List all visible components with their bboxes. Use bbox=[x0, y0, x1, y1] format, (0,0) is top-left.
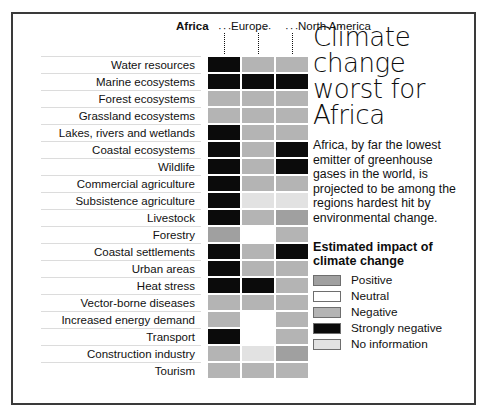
matrix-cell bbox=[242, 125, 274, 140]
matrix-cell bbox=[276, 74, 308, 89]
matrix-cell bbox=[276, 91, 308, 106]
matrix-cell bbox=[276, 329, 308, 344]
matrix-cell bbox=[208, 261, 240, 276]
row-label-water-resources: Water resources bbox=[13, 58, 195, 73]
legend-swatch-pos-icon bbox=[313, 275, 341, 286]
matrix-cell bbox=[242, 312, 274, 327]
matrix-cell bbox=[242, 363, 274, 378]
legend-item-neg: Negative bbox=[313, 306, 463, 321]
infographic-frame: Africa···Europe···North America··· Water… bbox=[11, 12, 476, 405]
matrix-cell bbox=[208, 142, 240, 157]
matrix-cell bbox=[242, 278, 274, 293]
row-label-tourism: Tourism bbox=[13, 364, 195, 379]
legend-label: Neutral bbox=[351, 290, 389, 303]
row-divider bbox=[41, 226, 201, 227]
legend-label: Positive bbox=[351, 274, 392, 287]
row-divider bbox=[41, 158, 201, 159]
legend-label: No information bbox=[351, 338, 428, 351]
matrix-row: Tourism bbox=[13, 362, 474, 379]
matrix-cell bbox=[276, 227, 308, 242]
row-divider bbox=[41, 277, 201, 278]
legend-item-neutral: Neutral bbox=[313, 290, 463, 305]
row-label-heat-stress: Heat stress bbox=[13, 279, 195, 294]
matrix-cell bbox=[208, 363, 240, 378]
matrix-cell bbox=[276, 210, 308, 225]
matrix-cell bbox=[208, 227, 240, 242]
legend-swatch-neg-icon bbox=[313, 307, 341, 318]
row-divider bbox=[41, 141, 201, 142]
row-label-wildlife: Wildlife bbox=[13, 160, 195, 175]
matrix-cell bbox=[242, 74, 274, 89]
row-divider bbox=[41, 209, 201, 210]
matrix-cell bbox=[242, 193, 274, 208]
matrix-cell bbox=[242, 346, 274, 361]
row-label-increased-energy-demand: Increased energy demand bbox=[13, 313, 195, 328]
matrix-cell bbox=[208, 312, 240, 327]
row-divider bbox=[41, 243, 201, 244]
matrix-cell bbox=[208, 125, 240, 140]
matrix-cell bbox=[242, 176, 274, 191]
legend-swatch-neutral-icon bbox=[313, 291, 341, 302]
matrix-cell bbox=[242, 57, 274, 72]
row-divider bbox=[41, 175, 201, 176]
legend-swatch-strongneg-icon bbox=[313, 323, 341, 334]
matrix-cell bbox=[276, 57, 308, 72]
matrix-cell bbox=[242, 329, 274, 344]
row-divider bbox=[41, 192, 201, 193]
row-label-coastal-settlements: Coastal settlements bbox=[13, 245, 195, 260]
matrix-cell bbox=[242, 159, 274, 174]
row-divider bbox=[41, 73, 201, 74]
matrix-cell bbox=[242, 244, 274, 259]
row-label-grassland-ecosystems: Grassland ecosystems bbox=[13, 109, 195, 124]
matrix-cell bbox=[276, 125, 308, 140]
matrix-cell bbox=[276, 363, 308, 378]
matrix-cell bbox=[208, 244, 240, 259]
infographic-root: Africa···Europe···North America··· Water… bbox=[0, 0, 488, 418]
matrix-cell bbox=[276, 193, 308, 208]
matrix-cell bbox=[208, 210, 240, 225]
row-label-urban-areas: Urban areas bbox=[13, 262, 195, 277]
matrix-cell bbox=[276, 142, 308, 157]
row-divider bbox=[41, 345, 201, 346]
infographic-canvas: Africa···Europe···North America··· Water… bbox=[13, 14, 474, 403]
legend-item-noinfo: No information bbox=[313, 338, 463, 353]
legend-swatch-noinfo-icon bbox=[313, 339, 341, 350]
matrix-cell bbox=[276, 295, 308, 310]
row-divider bbox=[41, 107, 201, 108]
matrix-cell bbox=[276, 108, 308, 123]
row-label-coastal-ecosystems: Coastal ecosystems bbox=[13, 143, 195, 158]
matrix-cell bbox=[208, 295, 240, 310]
matrix-cell bbox=[242, 108, 274, 123]
matrix-cell bbox=[276, 261, 308, 276]
matrix-cell bbox=[242, 261, 274, 276]
matrix-cell bbox=[208, 57, 240, 72]
row-divider bbox=[41, 328, 201, 329]
row-label-lakes-rivers-and-wetlands: Lakes, rivers and wetlands bbox=[13, 126, 195, 141]
row-divider bbox=[41, 311, 201, 312]
matrix-cell bbox=[208, 193, 240, 208]
matrix-cell bbox=[208, 329, 240, 344]
row-label-commercial-agriculture: Commercial agriculture bbox=[13, 177, 195, 192]
matrix-cell bbox=[208, 108, 240, 123]
matrix-cell bbox=[276, 244, 308, 259]
row-divider bbox=[41, 56, 201, 57]
row-divider bbox=[41, 260, 201, 261]
legend-label: Negative bbox=[351, 306, 398, 319]
matrix-cell bbox=[276, 176, 308, 191]
matrix-cell bbox=[208, 278, 240, 293]
row-divider bbox=[41, 124, 201, 125]
matrix-cell bbox=[276, 159, 308, 174]
matrix-cell bbox=[208, 74, 240, 89]
row-label-forestry: Forestry bbox=[13, 228, 195, 243]
matrix-cell bbox=[242, 295, 274, 310]
matrix-cell bbox=[242, 142, 274, 157]
column-header-africa: Africa bbox=[176, 20, 209, 33]
page-title: Climate change worst for Africa bbox=[313, 24, 463, 128]
row-label-vector-borne-diseases: Vector-borne diseases bbox=[13, 296, 195, 311]
matrix-cell bbox=[276, 312, 308, 327]
row-divider bbox=[41, 90, 201, 91]
row-label-transport: Transport bbox=[13, 330, 195, 345]
matrix-cell bbox=[208, 91, 240, 106]
row-label-livestock: Livestock bbox=[13, 211, 195, 226]
matrix-cell bbox=[276, 346, 308, 361]
